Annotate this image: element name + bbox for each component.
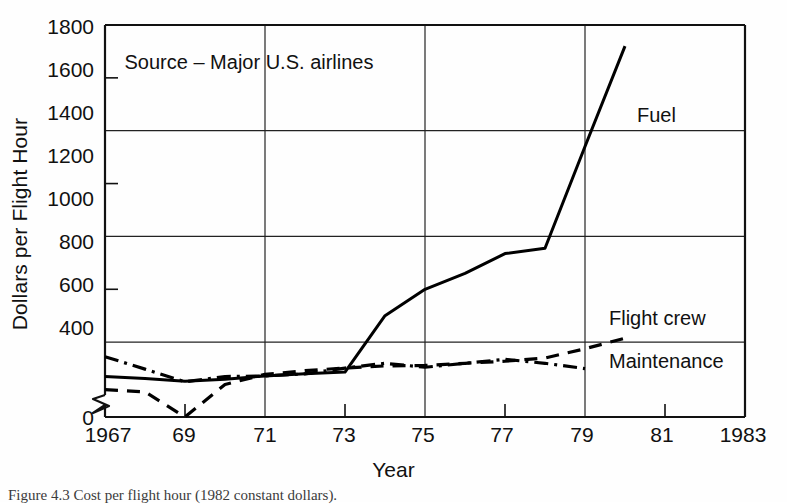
source-annotation: Source – Major U.S. airlines xyxy=(0,52,643,72)
series-label-fuel: Fuel xyxy=(637,105,676,125)
figure-caption: Figure 4.3 Cost per flight hour (1982 co… xyxy=(8,487,778,504)
series-label-maintenance: Maintenance xyxy=(609,351,724,371)
series-label-flight-crew: Flight crew xyxy=(609,308,706,328)
